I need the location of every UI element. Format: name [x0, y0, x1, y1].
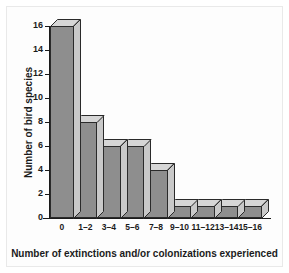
x-axis-title: Number of extinctions and/or colonizatio…	[10, 247, 279, 260]
y-tick-label: 6	[38, 140, 43, 150]
y-tick-mark	[45, 170, 49, 171]
y-tick-mark	[45, 146, 49, 147]
y-tick-mark	[45, 194, 49, 195]
y-tick: 8	[45, 122, 49, 123]
y-tick: 6	[45, 146, 49, 147]
bar-side-face	[143, 139, 152, 220]
bar-side-face	[120, 139, 129, 220]
plot-area: 0246810121416 01–23–45–67–89–1011–1213–1…	[0, 0, 289, 273]
y-axis-title: Number of bird species	[22, 26, 36, 219]
bar-side-face	[96, 115, 105, 220]
y-tick-label: 2	[38, 188, 43, 198]
y-tick-mark	[45, 50, 49, 51]
y-tick-mark	[45, 26, 49, 27]
y-tick: 10	[45, 98, 49, 99]
y-tick-mark	[45, 218, 49, 219]
y-tick: 14	[45, 50, 49, 51]
bar-front-face	[50, 26, 74, 218]
figure: 0246810121416 01–23–45–67–89–1011–1213–1…	[0, 0, 289, 273]
y-tick: 12	[45, 74, 49, 75]
y-tick-mark	[45, 74, 49, 75]
y-tick: 4	[45, 170, 49, 171]
y-tick-label: 4	[38, 164, 43, 174]
y-tick-mark	[45, 98, 49, 99]
x-tick-label: 15–16	[234, 222, 266, 233]
y-tick-label: 0	[38, 212, 43, 222]
y-tick: 0	[45, 218, 49, 219]
y-tick-mark	[45, 122, 49, 123]
y-tick: 16	[45, 26, 49, 27]
y-tick: 2	[45, 194, 49, 195]
y-tick-label: 8	[38, 116, 43, 126]
bar-side-face	[73, 19, 82, 220]
